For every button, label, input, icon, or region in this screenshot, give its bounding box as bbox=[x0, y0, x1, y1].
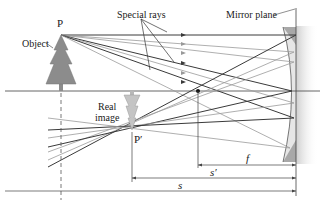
ray-diagram: P Object Special rays Mirror plane Real … bbox=[0, 0, 322, 202]
object-tree bbox=[46, 35, 76, 91]
reflected-rays bbox=[48, 35, 296, 167]
image-point-label: P′ bbox=[134, 133, 143, 145]
mirror-body bbox=[283, 27, 296, 162]
ray-arrows bbox=[181, 33, 186, 84]
object-distance-label: s bbox=[178, 179, 182, 191]
mirror bbox=[283, 26, 318, 164]
mirror-back-shading bbox=[296, 26, 318, 164]
real-image-label-line2: image bbox=[95, 112, 120, 123]
special-rays-label: Special rays bbox=[117, 9, 166, 20]
dimension-lines bbox=[5, 165, 296, 191]
object-label: Object bbox=[22, 38, 49, 49]
focal-length-label: f bbox=[246, 152, 251, 164]
mirror-plane-label: Mirror plane bbox=[226, 9, 277, 20]
object-point-label: P bbox=[57, 17, 63, 29]
mirror-plane-leader bbox=[274, 9, 295, 15]
image-tree bbox=[124, 91, 140, 130]
image-distance-label: s′ bbox=[210, 166, 217, 178]
real-image-label-line1: Real bbox=[98, 101, 117, 112]
